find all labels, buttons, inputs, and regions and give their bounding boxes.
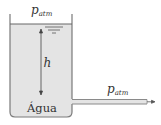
outlet-pressure-label: patm xyxy=(107,82,129,97)
top-pressure-label: patm xyxy=(31,3,53,18)
flow-arrow-icon xyxy=(147,100,155,103)
outlet-pipe xyxy=(72,100,147,105)
height-label: h xyxy=(44,56,52,70)
fluid-label: Água xyxy=(26,101,57,115)
tank-diagram: patm h Água patm xyxy=(0,0,161,125)
